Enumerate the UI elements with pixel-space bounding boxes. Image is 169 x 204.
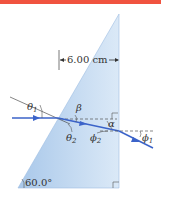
theta1-arc	[40, 105, 42, 118]
dimension-arrow-left-icon	[60, 58, 64, 62]
dimension-label: 6.00 cm	[67, 54, 108, 65]
theta1-label: θ1	[27, 101, 38, 114]
phi1-arc	[140, 131, 141, 137]
beta-label: β	[75, 102, 82, 113]
prism-refraction-diagram: 6.00 cm θ1 β θ2 α ϕ2 ϕ1 60.	[0, 0, 169, 204]
alpha-label: α	[108, 118, 115, 129]
prism	[18, 14, 119, 188]
entry-normal-line	[10, 97, 70, 124]
apex-angle-label: 60.0°	[25, 177, 52, 188]
diagram-svg: 6.00 cm θ1 β θ2 α ϕ2 ϕ1 60.	[0, 0, 169, 204]
incident-arrow-icon	[33, 115, 40, 121]
